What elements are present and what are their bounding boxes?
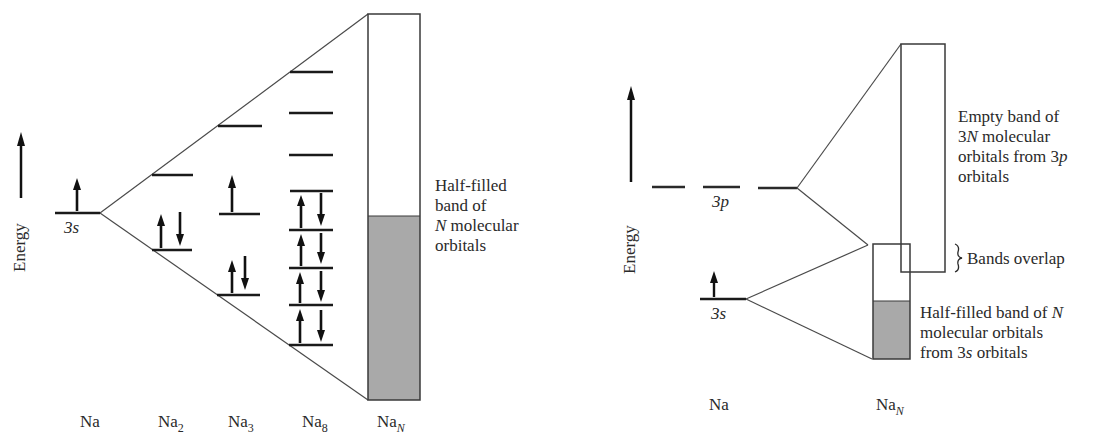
species-label-na: Na	[80, 412, 100, 432]
overlap-brace-icon	[955, 244, 962, 272]
left-band-annotation: Half-filled band of N molecular orbitals	[435, 176, 519, 256]
annotation-line: band of	[435, 196, 519, 216]
left-3s-label: 3s	[64, 218, 79, 238]
3p-band-outline	[901, 44, 945, 272]
left-energy-levels	[55, 72, 333, 345]
species-label-na8: Na8	[302, 412, 328, 433]
annotation-line: N molecular	[435, 216, 519, 236]
annotation-line: orbitals from 3p	[958, 147, 1068, 167]
right-species-label-nan: NaN	[876, 395, 904, 416]
left-diagram	[17, 14, 420, 400]
annotation-line: Half-filled band of N	[920, 303, 1063, 323]
na-n-band	[368, 14, 420, 400]
3p-level	[652, 187, 797, 188]
right-energy-axis-label: Energy	[620, 225, 640, 274]
annotation-line: from 3s orbitals	[920, 343, 1063, 363]
right-diagram	[627, 44, 962, 359]
annotation-line: Empty band of	[958, 107, 1068, 127]
annotation-line: Half-filled	[435, 176, 519, 196]
right-species-label-na: Na	[709, 395, 729, 415]
annotation-line: 3N molecular	[958, 127, 1068, 147]
species-label-nan: NaN	[377, 412, 405, 433]
species-label-na3: Na3	[228, 412, 254, 433]
empty-band-annotation: Empty band of 3N molecular orbitals from…	[958, 107, 1068, 187]
right-3p-label: 3p	[712, 192, 729, 212]
species-label-na2: Na2	[158, 412, 184, 433]
electron-arrows	[77, 182, 321, 343]
3s-band-filled-region	[873, 301, 910, 359]
left-energy-axis-label: Energy	[10, 223, 30, 272]
annotation-line: orbitals	[435, 236, 519, 256]
right-3s-label: 3s	[711, 304, 726, 324]
bands-overlap-label: Bands overlap	[967, 249, 1065, 269]
annotation-line: molecular orbitals	[920, 323, 1063, 343]
annotation-line: orbitals	[958, 167, 1068, 187]
band-theory-diagram	[0, 0, 1118, 439]
half-filled-annotation: Half-filled band of N molecular orbitals…	[920, 303, 1063, 363]
band-filled-region	[368, 216, 420, 400]
arrow-heads	[73, 175, 325, 342]
